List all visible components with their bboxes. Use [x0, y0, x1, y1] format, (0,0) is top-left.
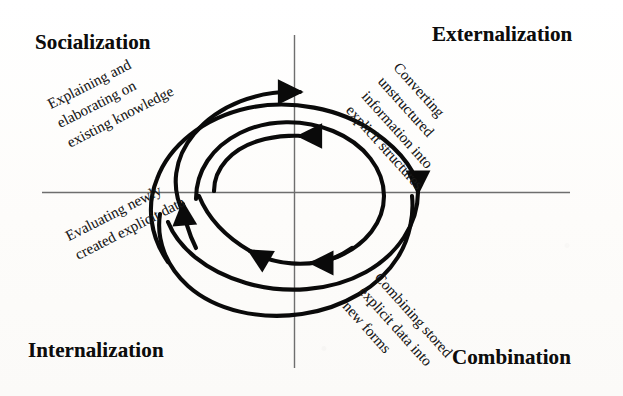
seci-spiral-figure: Socialization Externalization Internaliz…: [0, 0, 623, 396]
spiral-turn-inner: [214, 136, 300, 191]
quadrant-title-combination: Combination: [452, 345, 571, 370]
spiral-bottom-arrow-stroke: [312, 248, 352, 263]
spiral-turn-middle-close: [199, 196, 250, 251]
spiral-diagram-canvas: [0, 0, 623, 396]
quadrant-title-externalization: Externalization: [432, 22, 572, 47]
quadrant-title-internalization: Internalization: [28, 338, 164, 363]
